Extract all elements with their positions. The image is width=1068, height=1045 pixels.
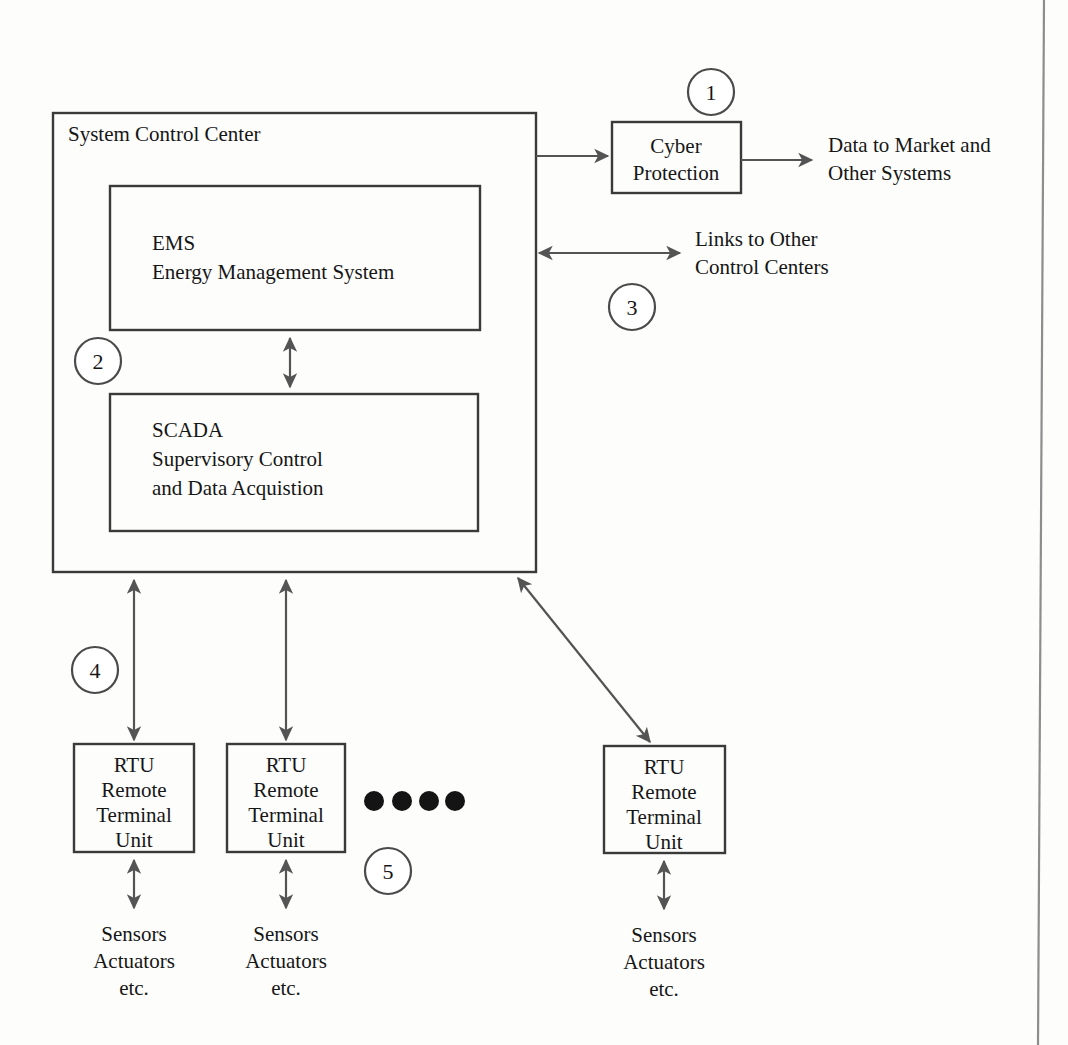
cyber-protection-label-line2: Protection	[633, 161, 720, 185]
callout-5-number: 5	[383, 859, 394, 884]
ems-label-acronym: EMS	[152, 231, 195, 255]
ems-box	[110, 186, 480, 330]
sensors-2-label-line1: Sensors	[253, 922, 318, 946]
rtu-3-label-line4: Unit	[645, 830, 683, 854]
callout-2: 2	[75, 338, 121, 384]
callout-2-number: 2	[93, 349, 104, 374]
callout-1: 1	[688, 69, 734, 115]
rtu-1-label-acronym: RTU	[114, 753, 155, 777]
scada-label-expansion-line2: and Data Acquistion	[152, 476, 324, 500]
callout-1-number: 1	[706, 80, 717, 105]
data-to-market-label-line1: Data to Market and	[828, 133, 991, 157]
sensors-3-label-line3: etc.	[649, 977, 679, 1001]
sensors-2-label-line3: etc.	[271, 976, 301, 1000]
system-control-center-title: System Control Center	[68, 122, 261, 146]
ellipsis-dot-4	[445, 791, 465, 811]
rtu-ellipsis-dots	[364, 791, 465, 811]
callout-3: 3	[609, 284, 655, 330]
rtu-1-label-line4: Unit	[115, 828, 153, 852]
rtu-1-label-line2: Remote	[101, 778, 166, 802]
ellipsis-dot-1	[364, 791, 384, 811]
sensors-3-label-line2: Actuators	[623, 950, 705, 974]
figure-canvas: System Control Center EMS Energy Managem…	[0, 0, 1068, 1045]
scada-label-expansion-line1: Supervisory Control	[152, 447, 323, 471]
rtu-2-label-acronym: RTU	[266, 753, 307, 777]
rtu-3-label-line3: Terminal	[626, 805, 702, 829]
rtu-1-label-line3: Terminal	[96, 803, 172, 827]
data-to-market-label-line2: Other Systems	[828, 161, 951, 185]
callout-4: 4	[72, 647, 118, 693]
ellipsis-dot-3	[419, 791, 439, 811]
rtu-3-label-acronym: RTU	[644, 755, 685, 779]
rtu-3-label-line2: Remote	[631, 780, 696, 804]
callout-4-number: 4	[90, 658, 101, 683]
callout-5: 5	[365, 848, 411, 894]
callout-3-number: 3	[627, 295, 638, 320]
system-control-center-box	[53, 113, 536, 572]
ems-label-expansion: Energy Management System	[152, 260, 394, 284]
sensors-1-label-line3: etc.	[119, 976, 149, 1000]
scc-to-rtu-3-arrow	[518, 578, 650, 742]
links-other-cc-label-line1: Links to Other	[695, 227, 817, 251]
cyber-protection-label-line1: Cyber	[650, 134, 701, 158]
ellipsis-dot-2	[392, 791, 412, 811]
links-other-cc-label-line2: Control Centers	[695, 255, 829, 279]
sensors-3-label-line1: Sensors	[631, 923, 696, 947]
sensors-1-label-line1: Sensors	[101, 922, 166, 946]
sensors-2-label-line2: Actuators	[245, 949, 327, 973]
rtu-2-label-line3: Terminal	[248, 803, 324, 827]
sensors-1-label-line2: Actuators	[93, 949, 175, 973]
page-edge-line	[1038, 0, 1044, 1045]
rtu-2-label-line2: Remote	[253, 778, 318, 802]
system-control-center-diagram: System Control Center EMS Energy Managem…	[0, 0, 1068, 1045]
scada-label-acronym: SCADA	[152, 418, 224, 442]
rtu-2-label-line4: Unit	[267, 828, 305, 852]
